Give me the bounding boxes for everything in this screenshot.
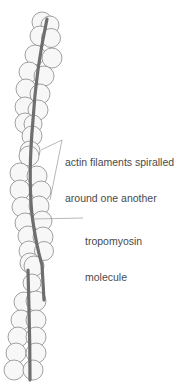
actin-label-line2: around one another [65, 192, 174, 204]
actin-filaments [4, 12, 62, 380]
tropomyosin-label-line2: molecule [85, 271, 142, 283]
tropomyosin-label: tropomyosin molecule [85, 211, 142, 295]
actin-label-line1: actin filaments spiralled [65, 156, 174, 168]
actin-leader-line [41, 140, 62, 150]
actin-leader-line-2 [50, 140, 62, 200]
tropomyosin-label-line1: tropomyosin [85, 235, 142, 247]
actin-label: actin filaments spiralled around one ano… [65, 132, 174, 216]
